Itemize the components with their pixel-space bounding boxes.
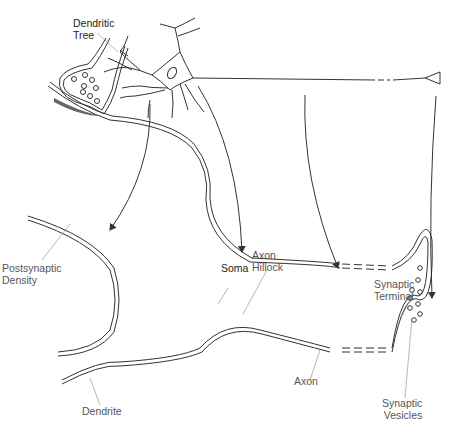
label-axon-hillock: Axon Hillock [252,249,283,273]
label-line: Synaptic [382,397,422,409]
label-synaptic-terminal: Synaptic Terminal [374,278,414,302]
neuron-diagram [0,0,454,430]
label-axon: Axon [294,375,318,387]
neuron-soma [152,52,193,90]
label-line: Hillock [252,261,283,273]
label-dendritic-tree: Dendritic Tree [73,17,114,41]
label-line: Postsynaptic [2,262,62,274]
label-dendrite: Dendrite [82,405,122,417]
label-line: Synaptic [374,278,414,290]
label-line: Tree [73,29,114,41]
label-line: Terminal [374,290,414,302]
label-synaptic-vesicles: Synaptic Vesicles [382,397,422,421]
label-postsynaptic-density: Postsynaptic Density [2,262,62,286]
label-line: Density [2,274,62,286]
label-line: Dendritic [73,17,114,29]
label-line: Axon [252,249,283,261]
label-line: Vesicles [382,409,422,421]
label-soma: Soma [221,262,248,274]
